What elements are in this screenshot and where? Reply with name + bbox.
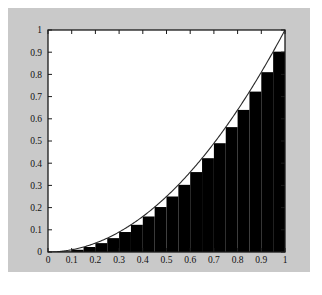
bar — [84, 247, 96, 252]
x-tick-label: 0.6 — [184, 255, 196, 265]
x-tick-label: 0.1 — [66, 255, 78, 265]
bar — [107, 238, 119, 252]
x-tick-label: 0.4 — [137, 255, 149, 265]
bar — [238, 110, 250, 252]
y-tick-label: 0.9 — [30, 48, 42, 58]
bar — [249, 92, 261, 252]
bar — [155, 207, 167, 252]
bar — [214, 143, 226, 252]
bar — [190, 172, 202, 252]
y-tick-label: 0.7 — [30, 92, 42, 102]
x-tick-label: 0.9 — [255, 255, 267, 265]
bar — [167, 197, 179, 253]
x-tick-label: 0.8 — [232, 255, 244, 265]
riemann-sum-chart: 00.10.20.30.40.50.60.70.80.9100.10.20.30… — [0, 0, 322, 295]
y-tick-label: 1 — [37, 25, 42, 35]
y-tick-label: 0.1 — [30, 225, 42, 235]
bar — [95, 243, 107, 252]
y-tick-label: 0.6 — [30, 114, 42, 124]
x-tick-label: 0.3 — [113, 255, 125, 265]
bar — [131, 225, 143, 252]
bar — [226, 127, 238, 252]
x-tick-label: 0.2 — [89, 255, 101, 265]
y-tick-label: 0.2 — [30, 203, 42, 213]
figure-root: 00.10.20.30.40.50.60.70.80.9100.10.20.30… — [0, 0, 322, 295]
y-tick-label: 0.4 — [30, 159, 42, 169]
bar — [202, 158, 214, 252]
x-tick-label: 1 — [283, 255, 288, 265]
bar — [119, 232, 131, 252]
y-tick-label: 0 — [37, 247, 42, 257]
x-tick-label: 0.7 — [208, 255, 220, 265]
bar — [178, 185, 190, 252]
bar — [273, 52, 285, 252]
bar — [143, 216, 155, 252]
bar — [261, 72, 273, 252]
x-tick-label: 0.5 — [161, 255, 173, 265]
y-tick-label: 0.3 — [30, 181, 42, 191]
y-tick-label: 0.5 — [30, 136, 42, 146]
x-tick-label: 0 — [46, 255, 51, 265]
y-tick-label: 0.8 — [30, 70, 42, 80]
